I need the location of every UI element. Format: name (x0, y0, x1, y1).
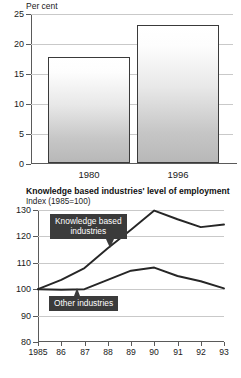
bar-gridline-25 (31, 14, 233, 15)
bar-chart-unit-label: Per cent (26, 1, 58, 11)
line-ylabel-100: 100 (16, 284, 31, 294)
bar-1996[interactable]: 1996 (137, 25, 219, 163)
line-chart-subtitle: Index (1985=100) (26, 197, 90, 206)
bar-ylabel-10: 10 (14, 99, 24, 109)
line-ylabel-80: 80 (21, 337, 31, 347)
bar-chart-plot-area: 25 20 15 10 5 0 1980 1996 (31, 14, 233, 164)
line-xlabel-89: 89 (126, 347, 136, 357)
line-ylabel-110: 110 (17, 258, 31, 268)
line-xtick-86 (61, 342, 62, 346)
line-chart-plot-area: 130 120 110 100 90 80 1985 86 87 88 89 9… (38, 210, 224, 342)
bar-chart-y-axis (31, 14, 32, 164)
line-ylabel-120: 120 (16, 231, 31, 241)
line-xtick-90 (154, 342, 155, 346)
bar-ylabel-15: 15 (14, 69, 24, 79)
bar-ylabel-25: 25 (14, 9, 24, 19)
line-ylabel-130: 130 (16, 205, 31, 215)
line-xlabel-1985: 1985 (28, 347, 47, 357)
bar-ylabel-5: 5 (19, 129, 24, 139)
line-xtick-1985 (38, 342, 39, 346)
bar-1980[interactable]: 1980 (48, 57, 130, 163)
bar-ytick-5 (26, 134, 31, 135)
callout-knowledge-based-industries: Knowledge based industries (50, 214, 127, 239)
line-xlabel-93: 93 (219, 347, 229, 357)
bar-ytick-20 (26, 44, 31, 45)
line-chart-figure: Knowledge based industries' level of emp… (0, 186, 241, 378)
bar-ytick-25 (26, 14, 31, 15)
bar-xlabel-1980: 1980 (78, 169, 99, 180)
line-xlabel-91: 91 (173, 347, 183, 357)
callout-pointer-icon (74, 288, 80, 296)
callout-pointer-icon (106, 239, 114, 248)
line-xtick-93 (224, 342, 225, 346)
line-xtick-92 (201, 342, 202, 346)
bar-xlabel-1996: 1996 (167, 169, 188, 180)
line-xtick-87 (85, 342, 86, 346)
line-xlabel-86: 86 (56, 347, 66, 357)
line-xlabel-92: 92 (196, 347, 206, 357)
bar-ytick-0 (26, 164, 31, 165)
bar-ytick-15 (26, 74, 31, 75)
bar-chart-x-axis (31, 163, 237, 164)
line-xlabel-88: 88 (103, 347, 113, 357)
callout-other-label: Other industries (54, 298, 113, 308)
line-xtick-91 (178, 342, 179, 346)
line-xtick-89 (131, 342, 132, 346)
bar-ylabel-20: 20 (14, 39, 24, 49)
line-xtick-88 (108, 342, 109, 346)
line-chart-title: Knowledge based industries' level of emp… (26, 186, 230, 196)
callout-knowledge-line-1: Knowledge based (55, 216, 122, 226)
bar-ytick-10 (26, 104, 31, 105)
callout-other-industries: Other industries (49, 296, 118, 311)
callout-knowledge-line-2: industries (55, 226, 122, 236)
bar-ylabel-0: 0 (19, 159, 24, 169)
line-xlabel-87: 87 (80, 347, 90, 357)
bar-chart-figure: Per cent 25 20 15 10 5 0 1980 1996 (0, 0, 241, 190)
line-ylabel-90: 90 (21, 311, 31, 321)
line-xlabel-90: 90 (149, 347, 159, 357)
